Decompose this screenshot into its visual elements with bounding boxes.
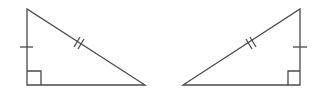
left-right-angle-mark [27,71,41,85]
left-triangle [20,9,145,85]
left-triangle-outline [27,9,145,85]
congruent-right-triangles-diagram [0,0,326,93]
right-triangle-outline [183,9,300,85]
right-right-angle-mark [288,71,300,85]
right-triangle [183,9,307,85]
